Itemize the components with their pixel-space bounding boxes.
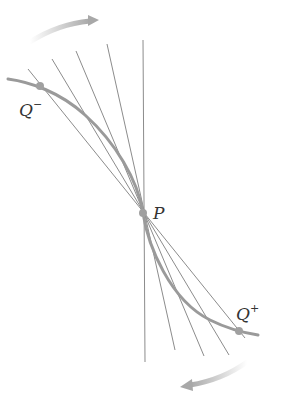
secant-line-0 (28, 69, 245, 338)
top-rotation-arrow-icon (30, 15, 99, 42)
point-q-plus (235, 327, 243, 335)
secant-line-3 (107, 44, 175, 350)
curve (8, 79, 258, 335)
secant-line-4 (143, 40, 145, 362)
secant-lines (28, 40, 245, 362)
label-p: P (152, 203, 165, 223)
label-q-plus: Q+ (236, 302, 259, 324)
label-q-minus: Q− (19, 98, 42, 120)
diagram-canvas: Q− P Q+ (0, 0, 281, 406)
bottom-rotation-arrow-icon (180, 362, 247, 391)
point-p (139, 209, 147, 217)
point-q-minus (36, 82, 44, 90)
secant-tangent-diagram: Q− P Q+ (0, 0, 281, 406)
